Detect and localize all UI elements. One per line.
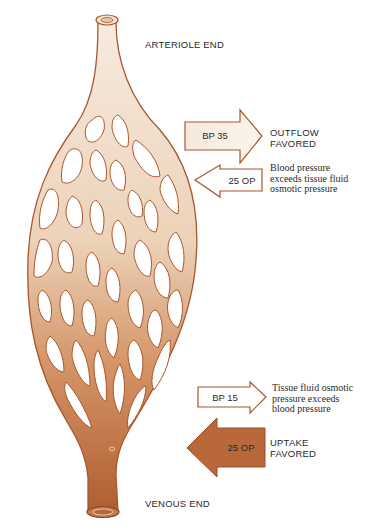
capillary-bed-diagram	[0, 0, 372, 530]
bp-35-label: BP 35	[190, 130, 240, 141]
outflow-favored-label: OUTFLOW FAVORED	[270, 127, 319, 149]
uptake-favored-label: UPTAKE FAVORED	[270, 437, 316, 459]
arterial-explanation: Blood pressure exceeds tissue fluid osmo…	[270, 163, 348, 195]
op-25-arterial-label: 25 OP	[222, 175, 262, 186]
op-25-venous-label: 25 OP	[218, 442, 264, 453]
arteriole-end-label: ARTERIOLE END	[145, 39, 224, 50]
bp-15-label: BP 15	[200, 392, 250, 403]
venous-explanation: Tissue fluid osmotic pressure exceeds bl…	[272, 383, 353, 415]
venous-end-label: VENOUS END	[145, 498, 210, 509]
capillary-network	[28, 15, 197, 518]
